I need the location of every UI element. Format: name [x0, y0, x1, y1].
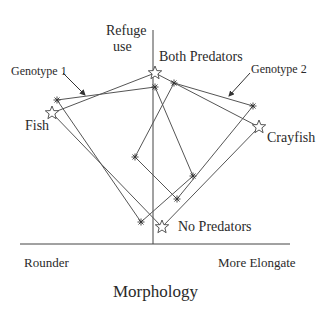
- asterisk-icon: [250, 103, 257, 110]
- label-crayfish: Crayfish: [267, 131, 315, 145]
- asterisk-icon: [171, 80, 178, 87]
- label-both-predators: Both Predators: [159, 50, 243, 64]
- genotype-1-polygon: [57, 87, 193, 222]
- asterisk-icon: [152, 84, 159, 91]
- star-icon: [148, 66, 161, 79]
- y-axis-label-line1: Refuge: [106, 24, 146, 38]
- label-genotype-2: Genotype 2: [251, 63, 307, 75]
- label-rounder: Rounder: [24, 256, 69, 269]
- label-no-predators: No Predators: [178, 220, 252, 234]
- asterisk-icon: [54, 97, 61, 104]
- label-fish: Fish: [25, 119, 49, 133]
- star-icon: [45, 106, 58, 119]
- asterisk-icon: [190, 173, 197, 180]
- label-genotype-1: Genotype 1: [11, 65, 67, 77]
- star-icon: [252, 120, 265, 133]
- x-axis-label: Morphology: [113, 283, 198, 300]
- asterisk-icon: [132, 154, 139, 161]
- y-axis-label-line2: use: [113, 40, 132, 54]
- asterisk-icon: [174, 196, 181, 203]
- asterisk-icon: [138, 219, 145, 226]
- star-markers: [45, 66, 265, 233]
- label-more-elongate: More Elongate: [218, 256, 296, 269]
- genotype-2-arrow: [229, 73, 250, 96]
- asterisk-markers: [54, 80, 257, 226]
